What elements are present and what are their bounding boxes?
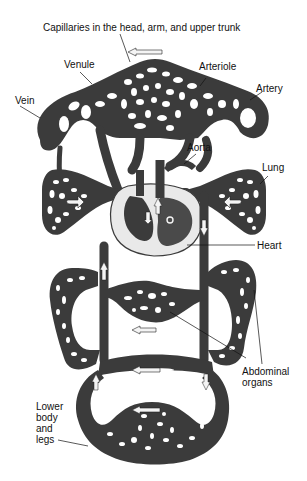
label-aorta: Aorta (187, 142, 211, 153)
label-arteriole: Arteriole (199, 61, 236, 72)
heart (111, 160, 203, 256)
abdominal-left-loop (50, 268, 100, 369)
label-lung: Lung (262, 162, 284, 173)
abdominal-central-organ (104, 281, 204, 323)
left-lung (42, 169, 120, 235)
label-capillaries: Capillaries in the head, arm, and upper … (43, 22, 240, 33)
top-flow-arrow-icon (128, 48, 162, 56)
label-heart: Heart (257, 240, 281, 251)
label-lower-body-and-legs: Lower body and legs (36, 401, 63, 445)
label-abdominal-organs: Abdominal organs (242, 366, 289, 388)
label-artery: Artery (256, 83, 283, 94)
label-vein: Vein (15, 95, 34, 106)
label-venule: Venule (64, 59, 95, 70)
abdomen-flow-arrow-icon (132, 326, 156, 334)
upper-body-capillary-bed (37, 59, 269, 151)
